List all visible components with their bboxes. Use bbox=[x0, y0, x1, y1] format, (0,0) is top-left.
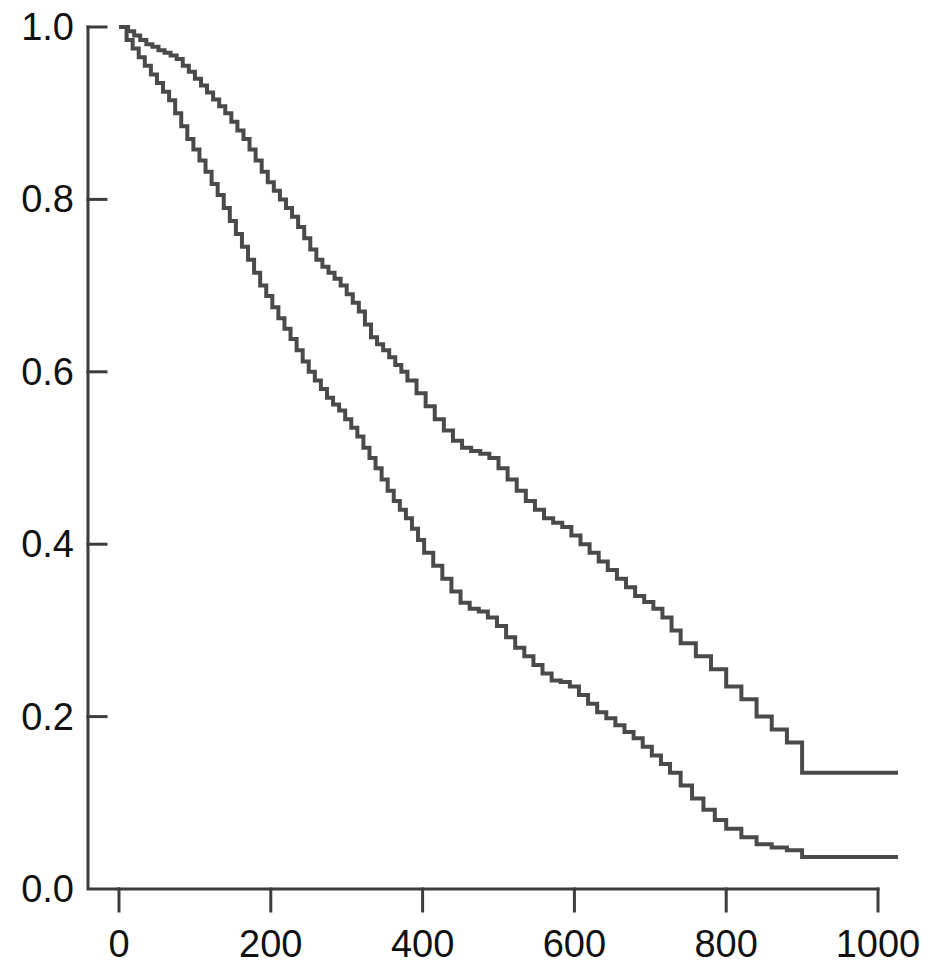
y-axis-line bbox=[88, 27, 118, 889]
x-tick-label: 0 bbox=[108, 923, 129, 965]
time-axis: 02004006008001000 bbox=[108, 889, 920, 965]
x-tick-label: 800 bbox=[694, 923, 757, 965]
y-tick-label: 0.4 bbox=[21, 523, 74, 565]
survival-curves bbox=[119, 27, 898, 857]
x-tick-label: 200 bbox=[239, 923, 302, 965]
kaplan-meier-chart: 0.00.20.40.60.81.0 02004006008001000 bbox=[0, 0, 934, 968]
y-tick-label: 0.0 bbox=[21, 868, 74, 910]
y-tick-label: 0.2 bbox=[21, 696, 74, 738]
x-tick-label: 1000 bbox=[836, 923, 921, 965]
x-tick-label: 600 bbox=[543, 923, 606, 965]
x-tick-label: 400 bbox=[391, 923, 454, 965]
y-tick-label: 1.0 bbox=[21, 6, 74, 48]
y-tick-label: 0.6 bbox=[21, 351, 74, 393]
km-curve-lower-curve bbox=[119, 27, 898, 857]
chart-canvas: 0.00.20.40.60.81.0 02004006008001000 bbox=[0, 0, 934, 968]
km-curve-upper-curve bbox=[119, 27, 898, 773]
y-tick-label: 0.8 bbox=[21, 178, 74, 220]
survival-probability-axis: 0.00.20.40.60.81.0 bbox=[21, 6, 118, 910]
